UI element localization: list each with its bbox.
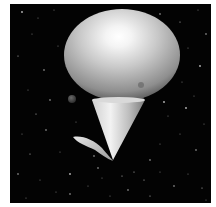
star [159, 13, 161, 15]
star [21, 133, 22, 134]
star [49, 99, 51, 101]
star [109, 195, 110, 196]
star [55, 191, 56, 192]
star [57, 45, 58, 46]
star [101, 177, 102, 178]
star [97, 167, 99, 169]
star [121, 175, 122, 176]
star [87, 185, 88, 186]
star [167, 115, 168, 116]
star [143, 179, 144, 180]
star [37, 17, 38, 18]
star [75, 121, 76, 122]
star [185, 107, 187, 109]
star [59, 151, 60, 152]
star [201, 187, 202, 188]
cone-rim [92, 97, 145, 103]
star [163, 101, 165, 103]
star [17, 173, 19, 175]
star [25, 197, 26, 198]
star [173, 185, 175, 187]
star [27, 89, 28, 90]
star [205, 33, 207, 35]
star [203, 123, 204, 124]
star [53, 9, 54, 10]
star [39, 179, 40, 180]
star [45, 129, 47, 131]
star [159, 143, 160, 144]
star [133, 171, 134, 172]
small-sphere [138, 82, 144, 88]
star [35, 113, 36, 114]
star [187, 173, 188, 174]
star [187, 47, 188, 48]
star [69, 173, 71, 175]
star [93, 155, 95, 157]
star [205, 199, 206, 200]
scene-canvas [10, 4, 211, 203]
star [149, 195, 150, 196]
star [127, 189, 129, 191]
star [195, 149, 197, 151]
star [21, 11, 23, 13]
small-sphere [68, 95, 76, 103]
star [29, 153, 30, 154]
star [17, 55, 18, 56]
star [199, 65, 201, 67]
star [159, 171, 160, 172]
star [31, 33, 32, 34]
star [193, 95, 194, 96]
star [69, 193, 71, 195]
star [43, 69, 45, 71]
rendered-scene [10, 4, 211, 203]
star [181, 81, 182, 82]
star [149, 159, 151, 161]
balloon-ellipsoid [64, 9, 180, 101]
star [197, 9, 198, 10]
star [179, 133, 180, 134]
star [179, 21, 180, 22]
